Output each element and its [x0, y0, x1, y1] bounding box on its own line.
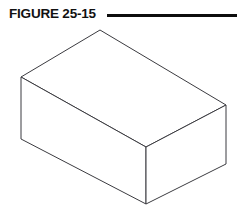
figure-page: FIGURE 25-15 — [0, 0, 244, 218]
figure-illustration — [0, 0, 244, 218]
rectangular-solid-drawing — [0, 0, 244, 218]
